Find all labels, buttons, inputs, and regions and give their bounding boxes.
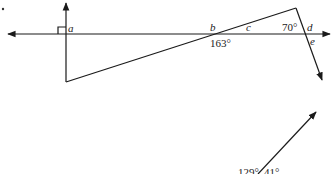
slanted-line-bc (66, 8, 296, 82)
stray-dot (2, 8, 4, 10)
label-angle-41: 41° (264, 166, 279, 174)
label-angle-129: 129° (238, 166, 259, 174)
label-d: d (307, 21, 313, 33)
label-angle-70: 70° (282, 21, 297, 33)
lower-ray (258, 112, 316, 174)
label-a: a (68, 22, 74, 34)
label-e: e (310, 35, 315, 47)
label-angle-163: 163° (210, 37, 231, 49)
geometry-diagram: a b c 70° d e 163° 129° 41° (0, 0, 332, 174)
label-b: b (210, 21, 216, 33)
right-angle-marker (58, 27, 66, 34)
slanted-line-de (296, 8, 322, 80)
label-c: c (246, 21, 251, 33)
